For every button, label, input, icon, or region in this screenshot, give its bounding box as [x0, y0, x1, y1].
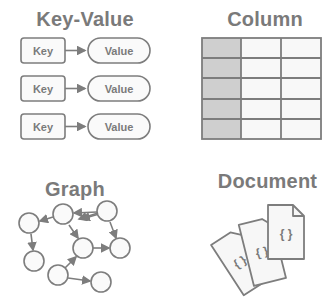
kv-key-2: Key [33, 83, 54, 95]
kv-value-1: Value [105, 45, 134, 57]
kv-value-2: Value [105, 83, 134, 95]
kv-key-3: Key [33, 121, 54, 133]
kv-value-3: Value [105, 121, 134, 133]
graph-network [0, 0, 119, 222]
kv-row-1: Key Value [21, 38, 150, 63]
kv-row-2: Key Value [21, 76, 150, 101]
column-table [202, 38, 321, 139]
document-icon-front: { } [268, 205, 304, 259]
document-icons: { } { } { } [211, 205, 304, 295]
kv-row-3: Key Value [21, 114, 150, 139]
document-glyph: { } [280, 227, 293, 241]
kv-key-1: Key [33, 45, 54, 57]
database-types-diagram: Key Value Key Value Key Value [0, 0, 333, 305]
